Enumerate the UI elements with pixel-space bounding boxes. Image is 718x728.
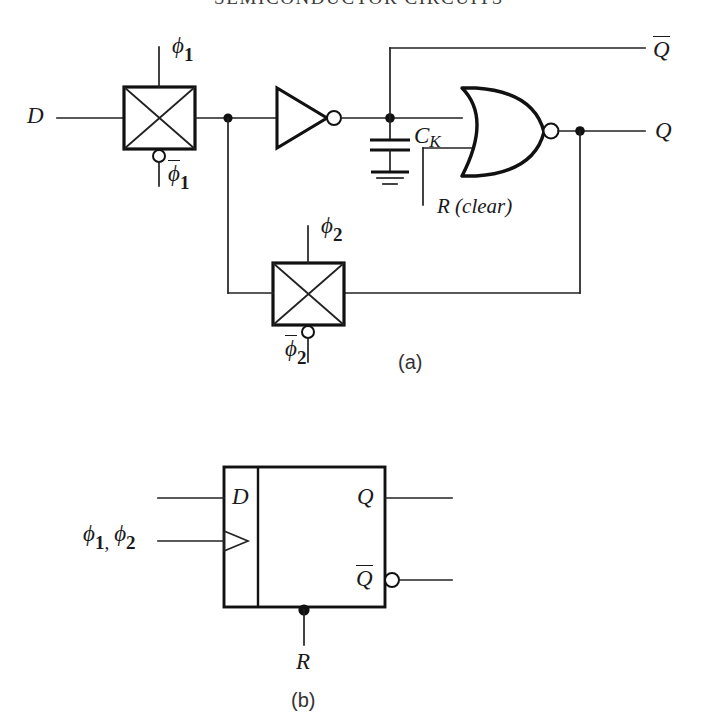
label-b-phi1-subscript: 1 xyxy=(95,532,105,553)
label-b-qbar-output-symbol: Q xyxy=(356,565,373,591)
inverter-body xyxy=(277,88,327,148)
qbar-output-bubble xyxy=(385,573,399,587)
label-b-phi2-symbol: ϕ xyxy=(114,521,126,546)
label-phi1-symbol: ϕ xyxy=(172,33,184,58)
label-phi2-bar-symbol: ϕ xyxy=(285,336,297,361)
nor-gate-output-bubble xyxy=(544,124,559,139)
circuit-drawing xyxy=(0,0,718,728)
label-phi2-bar-subscript: 2 xyxy=(297,347,307,368)
label-b-reset: R xyxy=(296,650,310,673)
label-phi1-bar: ϕ1 xyxy=(168,160,189,188)
label-b-phi1-symbol: ϕ xyxy=(83,521,95,546)
label-phi2-bar: ϕ2 xyxy=(285,335,306,363)
label-phi2-symbol: ϕ xyxy=(321,213,333,238)
label-ck-symbol: C xyxy=(414,123,429,148)
label-phi2: ϕ2 xyxy=(321,214,342,240)
label-reset-clear: R (clear) xyxy=(437,196,512,217)
label-phi1: ϕ1 xyxy=(172,34,193,60)
label-q-output-a: Q xyxy=(655,119,672,142)
label-qbar-output-a-symbol: Q xyxy=(653,36,670,62)
label-storage-capacitor: CK xyxy=(414,124,441,147)
label-b-phi2-subscript: 2 xyxy=(126,532,136,553)
label-b-clock: ϕ1,ϕ2 xyxy=(83,522,136,548)
label-phi1-subscript: 1 xyxy=(184,44,194,65)
label-b-d-input: D xyxy=(232,485,249,508)
label-phi2-subscript: 2 xyxy=(333,224,343,245)
label-phi1-bar-symbol: ϕ xyxy=(168,161,180,186)
transmission-gate-1-bubble xyxy=(153,150,165,162)
label-phi1-bar-subscript: 1 xyxy=(180,172,190,193)
caption-panel-a: (a) xyxy=(398,352,422,372)
panel-a-circuit xyxy=(57,47,645,362)
label-b-qbar-output: Q xyxy=(356,565,373,591)
label-b-clock-comma: , xyxy=(104,532,109,553)
panel-b-symbol xyxy=(158,467,452,645)
label-qbar-output-a: Q xyxy=(653,36,670,62)
nor-gate-body xyxy=(462,88,544,176)
label-d-input: D xyxy=(27,104,44,127)
label-ck-subscript: K xyxy=(429,132,440,151)
caption-panel-b: (b) xyxy=(291,690,315,710)
inverter-output-bubble xyxy=(327,111,341,125)
label-b-q-output: Q xyxy=(357,485,374,508)
figure-root: SEMICONDUCTOR CIRCUITS xyxy=(0,0,718,728)
